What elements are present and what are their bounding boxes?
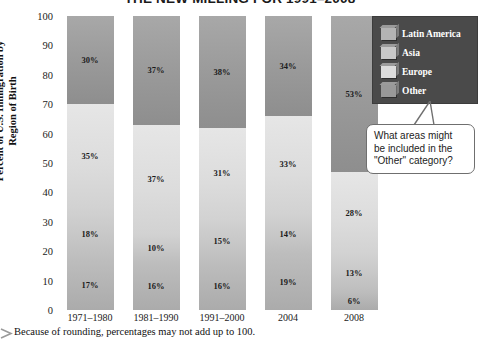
- segment-value-label: 16%: [214, 281, 231, 291]
- chart-figure: THE NEW MILLING FOR 1991–2008 Percent of…: [0, 0, 480, 348]
- segment-other[interactable]: 37%: [133, 16, 180, 125]
- legend-swatch-icon: [381, 85, 396, 97]
- legend-item-europe[interactable]: Europe: [381, 64, 432, 79]
- segment-value-label: 19%: [280, 277, 297, 287]
- bar-2004[interactable]: 34%33%14%19%: [265, 16, 312, 310]
- footnote-arrow-icon: [0, 328, 13, 339]
- y-tick-20: 20: [25, 246, 53, 257]
- segment-value-label: 53%: [346, 89, 363, 99]
- legend-label: Other: [402, 86, 426, 96]
- segment-europe[interactable]: 35%: [67, 104, 114, 207]
- legend-label: Europe: [402, 67, 432, 77]
- segment-latin-america[interactable]: 17%: [67, 260, 114, 310]
- segment-value-label: 10%: [148, 243, 165, 253]
- segment-latin-america[interactable]: 16%: [199, 263, 246, 310]
- x-tick-label-2008: 2008: [321, 312, 387, 323]
- callout-line-2: be included in the: [374, 143, 468, 156]
- y-tick-70: 70: [25, 99, 53, 110]
- segment-europe[interactable]: 37%: [133, 125, 180, 234]
- footnote: Because of rounding, percentages may not…: [14, 326, 255, 337]
- segment-europe[interactable]: 28%: [331, 172, 378, 254]
- segment-other[interactable]: 38%: [199, 16, 246, 128]
- segment-value-label: 37%: [148, 65, 165, 75]
- legend-label: Asia: [402, 48, 420, 58]
- y-tick-10: 10: [25, 275, 53, 286]
- y-tick-40: 40: [25, 187, 53, 198]
- segment-value-label: 15%: [214, 236, 231, 246]
- segment-latin-america[interactable]: 16%: [133, 263, 180, 310]
- callout-line-3: "Other" category?: [374, 155, 468, 168]
- bar-1991–2000[interactable]: 38%31%15%16%: [199, 16, 246, 310]
- callout-note: What areas might be included in the "Oth…: [366, 124, 475, 174]
- segment-latin-america[interactable]: 6%: [331, 292, 378, 310]
- segment-asia[interactable]: 14%: [265, 213, 312, 254]
- y-tick-90: 90: [25, 40, 53, 51]
- y-tick-80: 80: [25, 69, 53, 80]
- segment-europe[interactable]: 31%: [199, 128, 246, 219]
- x-tick-label-1981–1990: 1981–1990: [123, 312, 189, 323]
- y-axis-title: Percent of U.S. Immigration by Region of…: [0, 26, 19, 196]
- segment-other[interactable]: 34%: [265, 16, 312, 116]
- x-tick-label-2004: 2004: [255, 312, 321, 323]
- y-axis-ticks: 1009080706050403020100: [25, 16, 53, 310]
- legend: Latin AmericaAsiaEuropeOther: [373, 17, 477, 103]
- segment-asia[interactable]: 18%: [67, 207, 114, 260]
- segment-value-label: 13%: [346, 268, 363, 278]
- segment-value-label: 17%: [82, 280, 99, 290]
- segment-europe[interactable]: 33%: [265, 116, 312, 213]
- segment-value-label: 16%: [148, 281, 165, 291]
- plot-area: Percent of U.S. Immigration by Region of…: [57, 16, 387, 310]
- legend-label: Latin America: [402, 29, 461, 39]
- x-tick-label-1971–1980: 1971–1980: [57, 312, 123, 323]
- segment-latin-america[interactable]: 19%: [265, 254, 312, 310]
- segment-value-label: 33%: [280, 159, 297, 169]
- y-tick-50: 50: [25, 158, 53, 169]
- bar-1981–1990[interactable]: 37%37%10%16%: [133, 16, 180, 310]
- legend-item-latin-america[interactable]: Latin America: [381, 26, 461, 41]
- y-tick-30: 30: [25, 216, 53, 227]
- bar-group: 30%35%18%17%37%37%10%16%38%31%15%16%34%3…: [57, 16, 387, 310]
- x-tick-label-1991–2000: 1991–2000: [189, 312, 255, 323]
- segment-asia[interactable]: 15%: [199, 219, 246, 263]
- bar-1971–1980[interactable]: 30%35%18%17%: [67, 16, 114, 310]
- segment-value-label: 34%: [280, 61, 297, 71]
- segment-value-label: 37%: [148, 174, 165, 184]
- legend-swatch-icon: [381, 28, 396, 40]
- segment-value-label: 30%: [82, 55, 99, 65]
- segment-asia[interactable]: 13%: [331, 254, 378, 292]
- legend-item-other[interactable]: Other: [381, 83, 426, 98]
- segment-value-label: 31%: [214, 168, 231, 178]
- callout-line-1: What areas might: [374, 130, 468, 143]
- chart-title: THE NEW MILLING FOR 1991–2008: [0, 0, 480, 6]
- y-tick-0: 0: [25, 305, 53, 316]
- segment-value-label: 6%: [348, 296, 361, 306]
- y-tick-60: 60: [25, 128, 53, 139]
- y-tick-100: 100: [25, 11, 53, 22]
- segment-value-label: 35%: [82, 151, 99, 161]
- segment-other[interactable]: 30%: [67, 16, 114, 104]
- segment-value-label: 28%: [346, 208, 363, 218]
- segment-value-label: 14%: [280, 229, 297, 239]
- segment-value-label: 38%: [214, 67, 231, 77]
- legend-swatch-icon: [381, 47, 396, 59]
- legend-item-asia[interactable]: Asia: [381, 45, 420, 60]
- legend-swatch-icon: [381, 66, 396, 78]
- segment-asia[interactable]: 10%: [133, 234, 180, 263]
- segment-value-label: 18%: [82, 229, 99, 239]
